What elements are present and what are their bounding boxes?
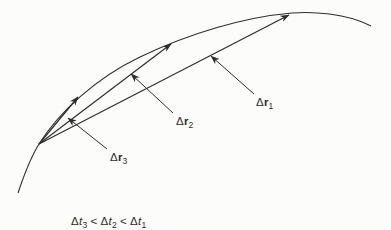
less-than-operator: < [117,215,130,227]
label-dr2: Δr2 [176,115,194,128]
caption-term-dt1: Δt1 [130,215,147,227]
leader-arrow-dr1 [211,56,254,94]
label-dr1: Δr1 [256,96,274,109]
less-than-operator: < [88,215,101,227]
vector-subscript: 1 [269,101,274,111]
trajectory-curve [18,13,371,193]
caption-term-dt3: Δt3 [71,215,88,227]
diagram-canvas [0,0,391,230]
delta-symbol: Δ [71,215,79,227]
leader-arrow-dr3 [68,118,107,149]
caption-term-dt2: Δt2 [101,215,118,227]
displacement-vector-dr3 [39,97,78,144]
displacement-vectors-figure: Δr1 Δr2 Δr3 Δt3<Δt2<Δt1 [0,0,391,230]
caption-time-inequality: Δt3<Δt2<Δt1 [71,214,147,228]
vector-subscript: 2 [189,120,194,130]
delta-symbol: Δ [256,96,264,108]
time-subscript: 3 [82,220,87,230]
delta-symbol: Δ [110,151,118,163]
delta-symbol: Δ [101,215,109,227]
displacement-vector-dr2 [39,44,171,144]
label-dr3: Δr3 [110,151,128,164]
vector-subscript: 3 [123,156,128,166]
delta-symbol: Δ [130,215,138,227]
time-subscript: 1 [142,220,147,230]
delta-symbol: Δ [176,115,184,127]
